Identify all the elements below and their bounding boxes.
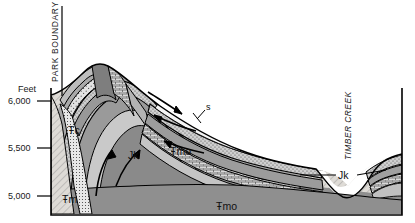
unit-label-TRm: Ŧm — [62, 193, 77, 205]
axis-unit-label: Feet — [18, 84, 37, 94]
axis-tick-label-6000: 6,000 — [8, 96, 31, 106]
cross-section-canvas: Feet 6,000 5,500 5,000 PARK BOUNDARY TIM… — [0, 0, 415, 223]
axis-tick-label-5000: 5,000 — [8, 191, 31, 201]
unit-label-TRmo-lower: Ŧmo — [216, 200, 237, 212]
unit-label-TRmo: Ŧmo — [170, 145, 191, 157]
unit-label-s: s — [206, 102, 211, 112]
timber-creek: TIMBER CREEK — [343, 91, 353, 160]
timber-creek-label: TIMBER CREEK — [343, 91, 353, 160]
unit-label-Jk-right: Jk — [338, 169, 349, 181]
unit-label-Jk: Jk — [128, 149, 139, 161]
unit-label-TRc: Ŧc — [68, 124, 80, 136]
cross-section-figure: Feet 6,000 5,500 5,000 PARK BOUNDARY TIM… — [0, 0, 415, 223]
axis-tick-label-5500: 5,500 — [8, 143, 31, 153]
park-boundary-label: PARK BOUNDARY — [50, 1, 60, 82]
